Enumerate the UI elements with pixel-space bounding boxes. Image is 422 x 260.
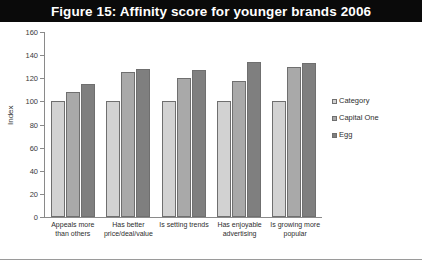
bar-category[interactable] (162, 101, 176, 217)
y-axis-tick-label: 80 (30, 120, 38, 129)
figure-title: Figure 15: Affinity score for younger br… (51, 4, 371, 19)
plot-area: 020406080100120140160 (44, 32, 322, 218)
bar-category[interactable] (272, 101, 286, 217)
legend-label: Egg (339, 131, 352, 139)
chart-legend: CategoryCapital OneEgg (332, 97, 418, 148)
y-axis-tick-label: 60 (30, 143, 38, 152)
x-axis-tick-label: Is growing more popular (267, 221, 323, 238)
y-axis-tick (40, 194, 44, 195)
y-axis-tick-label: 0 (34, 213, 38, 222)
y-axis-tick (40, 171, 44, 172)
y-axis-tick (40, 217, 44, 218)
bar-group (267, 32, 322, 217)
legend-swatch-icon (332, 133, 337, 138)
bar-capital-one[interactable] (66, 92, 80, 217)
x-axis-labels: Appeals more than othersHas better price… (45, 221, 323, 238)
y-axis-tick (40, 101, 44, 102)
x-axis-tick-label: Is setting trends (156, 221, 212, 238)
x-axis-line (44, 217, 322, 218)
y-axis-tick (40, 125, 44, 126)
figure-container: Figure 15: Affinity score for younger br… (0, 0, 422, 260)
bar-capital-one[interactable] (121, 72, 135, 217)
bar-capital-one[interactable] (177, 78, 191, 217)
y-axis-tick-label: 120 (25, 74, 38, 83)
bar-capital-one[interactable] (287, 67, 301, 217)
y-axis-label: Index (6, 105, 15, 125)
bar-group (156, 32, 211, 217)
y-axis-tick (40, 148, 44, 149)
x-axis-tick-label: Appeals more than others (45, 221, 101, 238)
bar-egg[interactable] (192, 70, 206, 217)
y-axis-tick-label: 160 (25, 28, 38, 37)
legend-label: Capital One (339, 114, 379, 122)
x-axis-tick-label: Has better price/deal/value (101, 221, 157, 238)
bar-group (100, 32, 155, 217)
bar-egg[interactable] (302, 63, 316, 217)
legend-swatch-icon (332, 116, 337, 121)
legend-item[interactable]: Capital One (332, 114, 418, 122)
bar-egg[interactable] (81, 84, 95, 217)
y-axis-tick-label: 20 (30, 189, 38, 198)
x-axis-tick-label: Has enjoyable advertising (212, 221, 268, 238)
figure-title-bar: Figure 15: Affinity score for younger br… (0, 0, 422, 22)
y-axis-tick-label: 140 (25, 51, 38, 60)
y-axis-tick (40, 32, 44, 33)
bar-category[interactable] (106, 101, 120, 217)
bar-capital-one[interactable] (232, 81, 246, 217)
legend-label: Category (339, 97, 369, 105)
legend-item[interactable]: Egg (332, 131, 418, 139)
bar-category[interactable] (51, 101, 65, 217)
legend-item[interactable]: Category (332, 97, 418, 105)
y-axis-tick (40, 55, 44, 56)
bar-egg[interactable] (136, 69, 150, 217)
y-axis-tick-label: 100 (25, 97, 38, 106)
legend-swatch-icon (332, 99, 337, 104)
bar-groups (45, 32, 322, 217)
bar-group (45, 32, 100, 217)
y-axis-tick (40, 78, 44, 79)
bar-group (211, 32, 266, 217)
y-axis-tick-label: 40 (30, 166, 38, 175)
bar-egg[interactable] (247, 62, 261, 217)
bar-category[interactable] (217, 101, 231, 217)
